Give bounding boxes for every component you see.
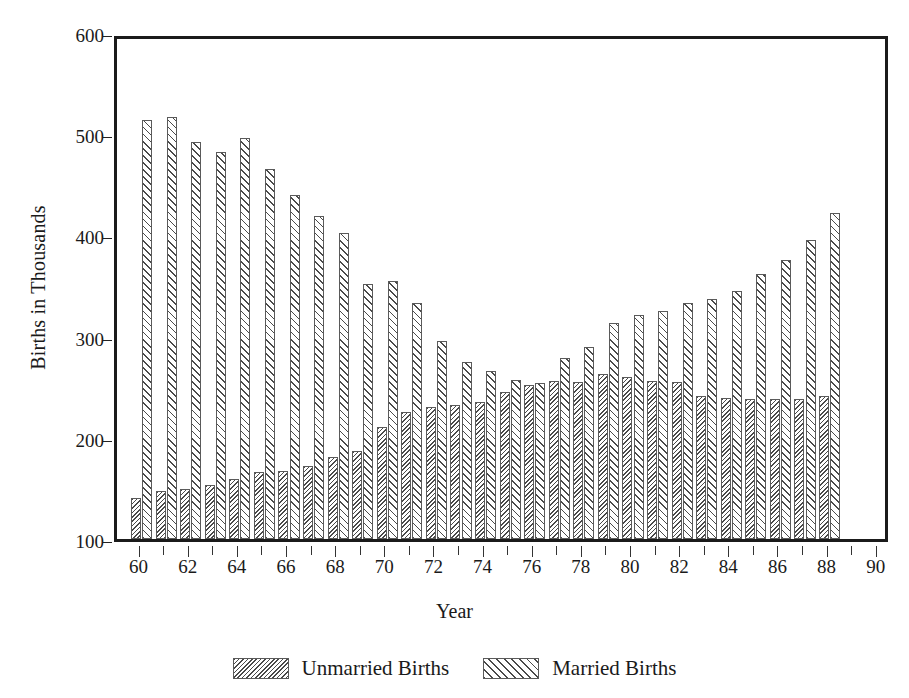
x-axis-ticks: 60626466687072747678808284868890: [0, 0, 909, 698]
legend-label-unmarried: Unmarried Births: [302, 656, 450, 681]
x-tick-label: 68: [315, 556, 355, 578]
x-tick-label: 60: [119, 556, 159, 578]
y-tick-mark: [103, 238, 112, 239]
x-tick-mark-minor: [311, 546, 312, 555]
legend-swatch-married-icon: [483, 658, 539, 679]
x-tick-label: 84: [708, 556, 748, 578]
x-tick-label: 64: [217, 556, 257, 578]
legend-item-married: Married Births: [483, 656, 676, 681]
legend-label-married: Married Births: [552, 656, 676, 681]
x-tick-mark-minor: [261, 546, 262, 555]
x-tick-label: 80: [610, 556, 650, 578]
x-tick-mark-minor: [212, 546, 213, 555]
x-tick-label: 62: [168, 556, 208, 578]
legend-item-unmarried: Unmarried Births: [233, 656, 450, 681]
births-bar-chart: Births in Thousands 600500400300200100 6…: [0, 0, 909, 698]
x-tick-mark-minor: [458, 546, 459, 555]
x-tick-label: 78: [561, 556, 601, 578]
x-tick-mark-minor: [655, 546, 656, 555]
y-tick-mark: [103, 36, 112, 37]
legend-swatch-unmarried-icon: [233, 658, 289, 679]
x-tick-label: 86: [757, 556, 797, 578]
x-tick-mark-minor: [605, 546, 606, 555]
x-tick-mark-minor: [163, 546, 164, 555]
x-tick-mark-minor: [753, 546, 754, 555]
x-tick-label: 76: [512, 556, 552, 578]
x-tick-label: 70: [364, 556, 404, 578]
y-tick-mark: [103, 441, 112, 442]
x-tick-label: 72: [413, 556, 453, 578]
x-tick-mark-minor: [851, 546, 852, 555]
x-tick-mark-minor: [802, 546, 803, 555]
x-tick-mark-minor: [360, 546, 361, 555]
x-tick-label: 82: [659, 556, 699, 578]
x-tick-label: 66: [266, 556, 306, 578]
x-tick-mark-minor: [704, 546, 705, 555]
x-axis-title: Year: [0, 600, 909, 623]
y-tick-mark: [103, 137, 112, 138]
x-tick-mark-minor: [507, 546, 508, 555]
y-tick-mark: [103, 340, 112, 341]
x-tick-mark-minor: [556, 546, 557, 555]
x-tick-label: 90: [856, 556, 896, 578]
x-tick-label: 74: [463, 556, 503, 578]
chart-legend: Unmarried Births Married Births: [0, 648, 909, 688]
x-tick-mark-minor: [409, 546, 410, 555]
x-tick-label: 88: [807, 556, 847, 578]
y-tick-mark: [103, 542, 112, 543]
